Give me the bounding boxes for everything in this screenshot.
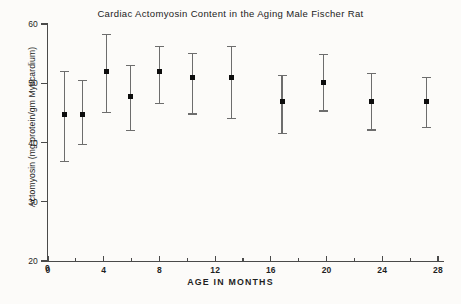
- chart-title: Cardiac Actomyosin Content in the Aging …: [0, 8, 461, 19]
- error-bar: [192, 54, 193, 114]
- origin-label: 0: [45, 263, 50, 273]
- x-axis-minor-tick: [131, 258, 132, 262]
- error-bar-cap-upper: [278, 75, 287, 76]
- data-point-marker: [190, 75, 195, 80]
- y-axis-tick-label: 20: [16, 256, 38, 266]
- y-axis-tick-label: 40: [16, 138, 38, 148]
- error-bar-cap-upper: [367, 73, 376, 74]
- x-axis-minor-tick: [75, 258, 76, 262]
- data-point-marker: [369, 99, 374, 104]
- data-point-marker: [424, 99, 429, 104]
- x-axis-tick-label: 4: [92, 265, 116, 275]
- x-axis-tick: [103, 256, 104, 262]
- y-axis-tick: [41, 142, 47, 143]
- error-bar-cap-lower: [60, 161, 69, 162]
- error-bar: [281, 76, 282, 134]
- y-axis-line: [47, 23, 48, 262]
- data-point-marker: [157, 69, 162, 74]
- x-axis-minor-tick: [242, 258, 243, 262]
- data-point-marker: [62, 112, 67, 117]
- error-bar-cap-lower: [227, 118, 236, 119]
- y-axis-tick: [41, 260, 47, 261]
- x-axis-tick: [326, 256, 327, 262]
- x-axis-minor-tick: [187, 258, 188, 262]
- error-bar-cap-upper: [227, 46, 236, 47]
- error-bar-cap-upper: [188, 53, 197, 54]
- x-axis-minor-tick: [410, 258, 411, 262]
- data-point-marker: [80, 112, 85, 117]
- error-bar-cap-upper: [60, 71, 69, 72]
- error-bar: [231, 47, 232, 119]
- data-point-marker: [104, 69, 109, 74]
- x-axis-tick-label: 8: [147, 265, 171, 275]
- x-axis-tick: [159, 256, 160, 262]
- x-axis-tick: [437, 256, 438, 262]
- x-axis-title: AGE IN MONTHS: [0, 277, 461, 287]
- data-point-marker: [321, 80, 326, 85]
- data-point-marker: [280, 99, 285, 104]
- x-axis-tick-label: 12: [203, 265, 227, 275]
- error-bar-cap-upper: [155, 46, 164, 47]
- data-point-marker: [128, 94, 133, 99]
- y-axis-tick-label: 60: [16, 19, 38, 29]
- error-bar-cap-upper: [319, 54, 328, 55]
- y-axis-tick: [41, 23, 47, 24]
- x-axis-tick-label: 20: [315, 265, 339, 275]
- y-axis-tick-label: 30: [16, 197, 38, 207]
- data-point-marker: [229, 75, 234, 80]
- x-axis-tick: [270, 256, 271, 262]
- error-bar-cap-lower: [155, 103, 164, 104]
- x-axis-tick-label: 16: [259, 265, 283, 275]
- error-bar-cap-lower: [126, 130, 135, 131]
- x-axis-line: [47, 261, 444, 262]
- x-axis-minor-tick: [298, 258, 299, 262]
- error-bar: [159, 47, 160, 104]
- x-axis-tick-label: 24: [370, 265, 394, 275]
- error-bar-cap-lower: [319, 110, 328, 111]
- error-bar-cap-upper: [102, 34, 111, 35]
- error-bar-cap-upper: [422, 77, 431, 78]
- y-axis-tick: [41, 83, 47, 84]
- error-bar-cap-lower: [78, 144, 87, 145]
- chart-figure: Cardiac Actomyosin Content in the Aging …: [0, 0, 461, 304]
- error-bar-cap-lower: [188, 113, 197, 114]
- error-bar-cap-lower: [278, 133, 287, 134]
- x-axis-tick: [47, 256, 48, 262]
- y-axis-tick-label: 50: [16, 78, 38, 88]
- error-bar-cap-lower: [422, 127, 431, 128]
- error-bar-cap-lower: [102, 112, 111, 113]
- y-axis-tick: [41, 201, 47, 202]
- error-bar-cap-lower: [367, 129, 376, 130]
- x-axis-minor-tick: [354, 258, 355, 262]
- x-axis-tick: [215, 256, 216, 262]
- x-axis-tick: [382, 256, 383, 262]
- x-axis-tick-label: 28: [426, 265, 450, 275]
- error-bar-cap-upper: [78, 80, 87, 81]
- error-bar-cap-upper: [126, 65, 135, 66]
